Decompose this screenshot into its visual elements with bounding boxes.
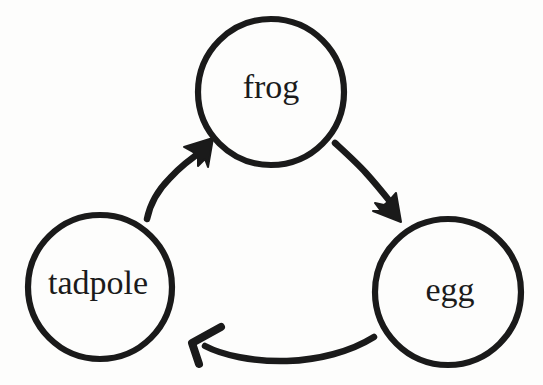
edge-tadpole-to-frog-line bbox=[147, 150, 204, 219]
node-tadpole-label: tadpole bbox=[48, 264, 148, 301]
edge-egg-to-tadpole bbox=[192, 327, 374, 364]
edge-egg-to-tadpole-line bbox=[205, 337, 374, 361]
diagram-canvas: frog tadpole egg bbox=[0, 0, 543, 385]
node-tadpole[interactable]: tadpole bbox=[28, 215, 172, 359]
node-frog[interactable]: frog bbox=[198, 19, 344, 165]
node-egg-label: egg bbox=[425, 271, 474, 308]
edge-frog-to-egg-line bbox=[335, 143, 392, 204]
node-frog-label: frog bbox=[243, 68, 300, 105]
node-egg[interactable]: egg bbox=[375, 219, 521, 365]
cycle-diagram: frog tadpole egg bbox=[0, 0, 543, 385]
edge-tadpole-to-frog bbox=[147, 138, 213, 219]
edge-frog-to-egg bbox=[335, 143, 401, 222]
